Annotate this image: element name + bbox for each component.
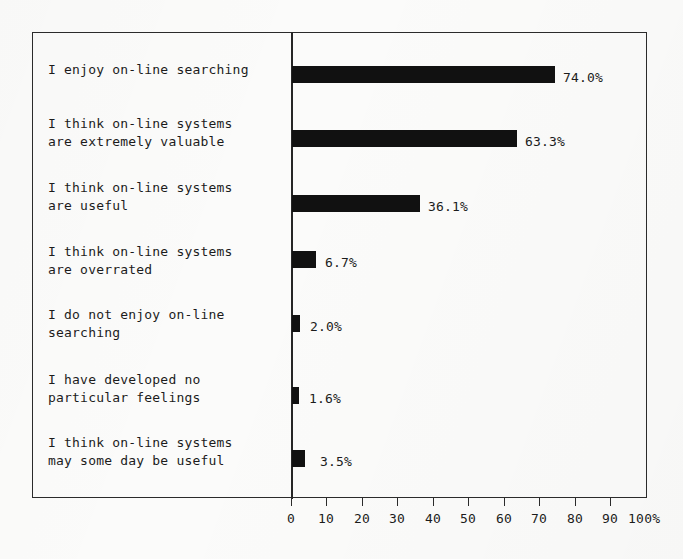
axis-tick-label-30: 30 bbox=[389, 512, 405, 526]
axis-tick-40 bbox=[433, 498, 434, 506]
axis-tick-90 bbox=[610, 498, 611, 506]
category-label-3-line-0: I think on-line systems bbox=[48, 243, 233, 261]
axis-tick-label-40: 40 bbox=[425, 512, 441, 526]
axis-tick-50 bbox=[468, 498, 469, 506]
category-label-4: I do not enjoy on-linesearching bbox=[48, 306, 225, 342]
bar-value-label-1: 63.3% bbox=[525, 135, 565, 148]
bar-value-label-2: 36.1% bbox=[428, 200, 468, 213]
axis-tick-60 bbox=[504, 498, 505, 506]
category-label-6-line-1: may some day be useful bbox=[48, 452, 233, 470]
category-label-3-line-1: are overrated bbox=[48, 261, 233, 279]
axis-tick-label-10: 10 bbox=[318, 512, 334, 526]
category-label-0: I enjoy on-line searching bbox=[48, 61, 249, 79]
bar-value-label-5: 1.6% bbox=[309, 392, 341, 405]
bar-4 bbox=[292, 315, 300, 332]
bar-value-label-6: 3.5% bbox=[320, 455, 352, 468]
axis-tick-label-100: 100% bbox=[628, 512, 660, 526]
axis-tick-label-80: 80 bbox=[567, 512, 583, 526]
axis-tick-80 bbox=[575, 498, 576, 506]
category-label-5-line-0: I have developed no bbox=[48, 371, 201, 389]
category-label-2: I think on-line systemsare useful bbox=[48, 179, 233, 215]
category-label-6-line-0: I think on-line systems bbox=[48, 434, 233, 452]
category-label-2-line-1: are useful bbox=[48, 197, 233, 215]
category-label-6: I think on-line systemsmay some day be u… bbox=[48, 434, 233, 470]
bar-value-label-4: 2.0% bbox=[310, 320, 342, 333]
axis-tick-label-60: 60 bbox=[496, 512, 512, 526]
category-label-2-line-0: I think on-line systems bbox=[48, 179, 233, 197]
bar-value-label-0: 74.0% bbox=[563, 71, 603, 84]
chart-page: I enjoy on-line searching I think on-lin… bbox=[0, 0, 683, 559]
category-label-5-line-1: particular feelings bbox=[48, 389, 201, 407]
category-label-4-line-1: searching bbox=[48, 324, 225, 342]
bar-value-label-3: 6.7% bbox=[325, 256, 357, 269]
category-label-0-line-0: I enjoy on-line searching bbox=[48, 62, 249, 77]
category-label-5: I have developed noparticular feelings bbox=[48, 371, 201, 407]
category-label-4-line-0: I do not enjoy on-line bbox=[48, 306, 225, 324]
axis-tick-10 bbox=[326, 498, 327, 506]
bar-6 bbox=[292, 450, 305, 467]
axis-tick-30 bbox=[397, 498, 398, 506]
bar-0 bbox=[292, 66, 555, 83]
bar-1 bbox=[292, 130, 517, 147]
axis-tick-label-90: 90 bbox=[602, 512, 618, 526]
axis-tick-label-0: 0 bbox=[287, 512, 295, 526]
category-label-1-line-1: are extremely valuable bbox=[48, 133, 233, 151]
axis-tick-20 bbox=[362, 498, 363, 506]
axis-tick-label-50: 50 bbox=[460, 512, 476, 526]
category-label-3: I think on-line systemsare overrated bbox=[48, 243, 233, 279]
category-label-1: I think on-line systemsare extremely val… bbox=[48, 115, 233, 151]
bar-2 bbox=[292, 195, 420, 212]
axis-tick-70 bbox=[539, 498, 540, 506]
category-label-1-line-0: I think on-line systems bbox=[48, 115, 233, 133]
axis-tick-0 bbox=[291, 498, 292, 506]
axis-tick-label-70: 70 bbox=[531, 512, 547, 526]
bar-5 bbox=[292, 387, 299, 404]
bar-3 bbox=[292, 251, 316, 268]
axis-tick-label-20: 20 bbox=[354, 512, 370, 526]
